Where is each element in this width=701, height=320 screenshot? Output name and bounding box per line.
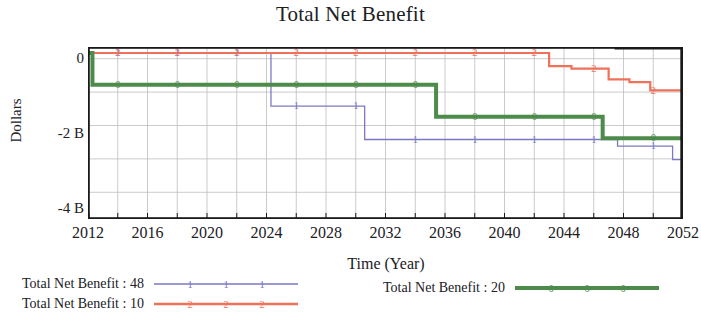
legend-swatch-48: 111	[152, 277, 300, 291]
legend-label-20: Total Net Benefit : 20	[383, 280, 505, 296]
y-axis-tick-labels: 0 -2 B -4 B	[32, 0, 84, 320]
svg-text:1: 1	[187, 279, 192, 290]
svg-text:0: 0	[175, 79, 180, 90]
legend-swatch-20: 000	[513, 281, 661, 295]
svg-text:0: 0	[234, 79, 239, 90]
legend-entry-10[interactable]: Total Net Benefit : 10 222	[22, 296, 300, 312]
plot-area: 111111111122222222220000000000	[88, 47, 683, 219]
svg-text:2: 2	[259, 299, 264, 310]
svg-text:2: 2	[472, 47, 477, 58]
x-tick-label: 2012	[72, 224, 104, 242]
chart-legend: Total Net Benefit : 48 111 Total Net Ben…	[0, 276, 701, 320]
x-tick-label: 2020	[191, 224, 223, 242]
y-tick-label: -2 B	[38, 125, 84, 142]
x-tick-label: 2048	[608, 224, 640, 242]
svg-text:2: 2	[175, 47, 180, 58]
x-tick-label: 2040	[489, 224, 521, 242]
svg-text:0: 0	[651, 132, 656, 143]
svg-text:2: 2	[187, 299, 192, 310]
svg-text:1: 1	[353, 100, 358, 111]
x-tick-label: 2036	[429, 224, 461, 242]
svg-text:1: 1	[532, 134, 537, 145]
legend-entry-48[interactable]: Total Net Benefit : 48 111	[22, 276, 300, 292]
svg-text:2: 2	[223, 299, 228, 310]
x-tick-label: 2016	[132, 224, 164, 242]
plot-svg: 111111111122222222220000000000	[88, 47, 683, 219]
x-tick-label: 2024	[251, 224, 283, 242]
legend-swatch-10: 222	[152, 297, 300, 311]
svg-text:1: 1	[413, 134, 418, 145]
chart-title: Total Net Benefit	[0, 2, 701, 27]
y-axis-title: Dollars	[8, 86, 25, 156]
x-tick-label: 2044	[548, 224, 580, 242]
chart-container: Total Net Benefit Dollars 0 -2 B -4 B 11…	[0, 0, 701, 320]
svg-text:0: 0	[532, 111, 537, 122]
svg-text:1: 1	[294, 100, 299, 111]
svg-text:2: 2	[591, 63, 596, 74]
svg-text:0: 0	[353, 79, 358, 90]
svg-text:0: 0	[548, 283, 553, 294]
svg-text:0: 0	[413, 79, 418, 90]
svg-text:1: 1	[591, 134, 596, 145]
x-tick-label: 2028	[310, 224, 342, 242]
svg-text:2: 2	[532, 47, 537, 58]
svg-text:0: 0	[115, 79, 120, 90]
svg-text:1: 1	[259, 279, 264, 290]
svg-text:1: 1	[223, 279, 228, 290]
svg-text:2: 2	[413, 47, 418, 58]
x-tick-label: 2032	[370, 224, 402, 242]
legend-label-10: Total Net Benefit : 10	[22, 296, 144, 312]
x-axis-title: Time (Year)	[88, 255, 684, 273]
svg-text:0: 0	[584, 283, 589, 294]
svg-text:0: 0	[472, 111, 477, 122]
y-tick-label: 0	[38, 50, 84, 67]
svg-text:1: 1	[472, 134, 477, 145]
svg-text:2: 2	[651, 85, 656, 96]
y-tick-label: -4 B	[38, 200, 84, 217]
legend-label-48: Total Net Benefit : 48	[22, 276, 144, 292]
svg-text:2: 2	[294, 47, 299, 58]
svg-text:2: 2	[115, 47, 120, 58]
svg-text:0: 0	[294, 79, 299, 90]
svg-text:0: 0	[591, 111, 596, 122]
svg-text:2: 2	[234, 47, 239, 58]
x-axis-tick-labels: 2012201620202024202820322036204020442048…	[0, 224, 701, 248]
legend-entry-20[interactable]: Total Net Benefit : 20 000	[383, 280, 661, 296]
svg-text:2: 2	[353, 47, 358, 58]
svg-text:0: 0	[620, 283, 625, 294]
x-tick-label: 2052	[667, 224, 699, 242]
